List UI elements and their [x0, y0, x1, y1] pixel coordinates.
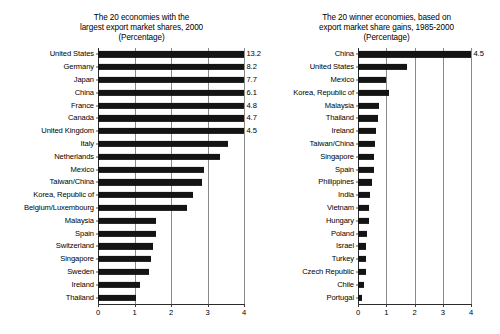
bar	[98, 256, 151, 262]
category-label: Spain	[75, 230, 94, 238]
x-axis-winner-economies: 01234	[358, 304, 471, 320]
bar-row: Belgium/Luxembourg	[98, 202, 244, 215]
bar-row: China4.5	[358, 48, 471, 61]
bar-row: Spain	[98, 227, 244, 240]
bar-row: Japan7.7	[98, 74, 244, 87]
category-label: Spain	[335, 166, 354, 174]
category-label: Vietnam	[327, 204, 354, 212]
x-tick	[358, 304, 359, 307]
category-label: Switzerland	[56, 242, 94, 250]
bar	[98, 102, 244, 108]
bar-row: Israel	[358, 240, 471, 253]
bar	[98, 166, 204, 172]
bar-row: Thailand	[98, 291, 244, 304]
bar	[358, 128, 376, 134]
bar-row: Vietnam	[358, 202, 471, 215]
bar-row: Italy	[98, 138, 244, 151]
bar-row: Korea, Republic of	[358, 86, 471, 99]
category-label: Malaysia	[65, 217, 94, 225]
x-tick	[386, 304, 387, 307]
bar-row: Germany8.2	[98, 61, 244, 74]
bar	[358, 64, 407, 70]
category-label: Belgium/Luxembourg	[24, 204, 94, 212]
category-label: Taiwan/China	[50, 178, 94, 186]
bar	[358, 154, 374, 160]
category-label: Mexico	[331, 76, 354, 84]
bar-rows-winner-economies: China4.5United StatesMexicoKorea, Republ…	[358, 48, 471, 304]
bar	[358, 192, 370, 198]
bar-row: Taiwan/China	[358, 138, 471, 151]
bar-row: Turkey	[358, 253, 471, 266]
category-label: United States	[310, 63, 354, 71]
chart-title-export-shares: The 20 economies with the largest export…	[0, 13, 255, 44]
x-tick	[244, 304, 245, 307]
x-tick-label: 1	[132, 308, 136, 317]
x-tick-label: 3	[205, 308, 209, 317]
bar	[98, 218, 156, 224]
grid-line	[244, 48, 245, 304]
bar	[358, 51, 471, 57]
bar-row: Sweden	[98, 266, 244, 279]
chart-page: The 20 economies with the largest export…	[0, 0, 500, 334]
bar	[358, 115, 378, 121]
bar	[358, 282, 364, 288]
x-tick	[208, 304, 209, 307]
bar	[98, 77, 244, 83]
bar-row: Ireland	[358, 125, 471, 138]
category-label: Ireland	[71, 281, 94, 289]
bar-row: India	[358, 189, 471, 202]
bar	[358, 166, 374, 172]
category-label: Turkey	[332, 255, 354, 263]
category-label: United States	[50, 50, 94, 58]
chart-title-winner-economies: The 20 winner economies, based on export…	[255, 13, 500, 44]
bar-row: Mexico	[358, 74, 471, 87]
bar	[98, 90, 244, 96]
x-tick-label: 4	[242, 308, 246, 317]
bar	[98, 115, 244, 121]
x-tick	[135, 304, 136, 307]
x-tick	[443, 304, 444, 307]
bar-row: Mexico	[98, 163, 244, 176]
bar-row: United States	[358, 61, 471, 74]
bar	[98, 192, 193, 198]
bar	[98, 51, 244, 57]
x-tick-label: 0	[356, 308, 360, 317]
bar	[358, 90, 389, 96]
category-label: Taiwan/China	[310, 140, 354, 148]
bar-row: United States13.2	[98, 48, 244, 61]
bar	[358, 256, 366, 262]
bar	[358, 77, 386, 83]
bar-row: Switzerland	[98, 240, 244, 253]
category-label: Portugal	[327, 294, 354, 302]
category-label: Ireland	[331, 127, 354, 135]
bar	[358, 269, 366, 275]
category-label: France	[71, 102, 94, 110]
bar-row: Canada4.7	[98, 112, 244, 125]
bar-row: Malaysia	[98, 214, 244, 227]
bar	[358, 230, 367, 236]
bar-row: Singapore	[358, 150, 471, 163]
category-label: Malaysia	[325, 102, 354, 110]
bar-row: United Kingdom4.5	[98, 125, 244, 138]
x-tick	[171, 304, 172, 307]
category-label: Czech Republic	[302, 268, 354, 276]
category-label: Chile	[337, 281, 354, 289]
x-tick-label: 3	[441, 308, 445, 317]
x-tick-label: 1	[384, 308, 388, 317]
x-tick	[471, 304, 472, 307]
x-tick-label: 4	[469, 308, 473, 317]
bar-row: Spain	[358, 163, 471, 176]
category-label: Korea, Republic of	[33, 191, 94, 199]
bar	[98, 205, 187, 211]
category-label: Mexico	[71, 166, 94, 174]
category-label: Philippines	[318, 178, 354, 186]
x-tick-label: 0	[96, 308, 100, 317]
x-tick-label: 2	[412, 308, 416, 317]
bar	[98, 230, 156, 236]
category-label: Singapore	[60, 255, 94, 263]
bar	[358, 141, 375, 147]
grid-line	[471, 48, 472, 304]
bar	[98, 141, 228, 147]
bar-row: Taiwan/China	[98, 176, 244, 189]
category-label: Netherlands	[54, 153, 94, 161]
